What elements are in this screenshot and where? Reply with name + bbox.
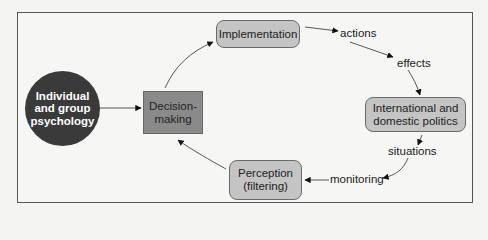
arrow-perception-to-decision bbox=[178, 140, 226, 169]
edge-label-actions: actions bbox=[340, 27, 376, 39]
psychology-line-3: psychology bbox=[31, 115, 95, 128]
politics-line-2: domestic politics bbox=[373, 115, 459, 128]
arrow-effects-to-politics bbox=[408, 70, 420, 95]
psychology-line-1: Individual bbox=[31, 90, 95, 103]
arrow-decision-to-implementation bbox=[165, 42, 213, 88]
arrow-situations-to-monitoring bbox=[383, 158, 408, 178]
politics-line-1: International and bbox=[373, 102, 459, 115]
node-decision-making: Decision- making bbox=[143, 91, 203, 134]
edge-label-monitoring: monitoring bbox=[330, 173, 384, 185]
arrow-actions-to-effects bbox=[350, 42, 393, 57]
decision-line-2: making bbox=[149, 113, 197, 126]
perception-line-2: (filtering) bbox=[238, 180, 293, 193]
perception-line-1: Perception bbox=[238, 167, 293, 180]
edge-label-effects: effects bbox=[397, 57, 431, 69]
decision-line-1: Decision- bbox=[149, 100, 197, 113]
arrow-politics-to-situations bbox=[418, 135, 422, 145]
psychology-line-2: and group bbox=[31, 102, 95, 115]
node-perception-filtering: Perception (filtering) bbox=[229, 160, 302, 200]
edge-label-situations: situations bbox=[388, 145, 437, 157]
node-individual-group-psychology: Individual and group psychology bbox=[25, 71, 100, 146]
node-international-domestic-politics: International and domestic politics bbox=[365, 97, 466, 132]
arrow-implementation-to-actions bbox=[305, 27, 338, 31]
node-implementation: Implementation bbox=[216, 20, 300, 48]
implementation-label: Implementation bbox=[219, 28, 298, 41]
